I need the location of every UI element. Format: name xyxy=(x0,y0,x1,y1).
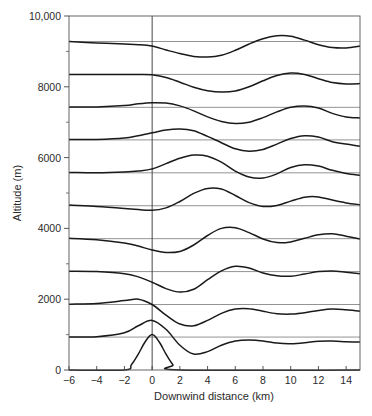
y-tick-label: 0 xyxy=(55,364,61,376)
x-tick-label: 10 xyxy=(285,374,297,386)
x-axis-title: Downwind distance (km) xyxy=(154,390,274,402)
y-tick-label: 10,000 xyxy=(29,10,61,22)
x-tick-label: 8 xyxy=(260,374,266,386)
streamline xyxy=(69,36,360,58)
streamlines xyxy=(69,36,360,371)
y-tick-label: 2000 xyxy=(38,293,62,305)
y-tick-label: 4000 xyxy=(38,222,62,234)
streamline xyxy=(69,335,360,371)
streamline xyxy=(69,266,360,292)
x-tick-label: −4 xyxy=(91,374,103,386)
y-tick-label: 6000 xyxy=(38,152,62,164)
x-tick-label: 14 xyxy=(340,374,352,386)
y-tick-label: 8000 xyxy=(38,81,62,93)
x-tick-label: 4 xyxy=(205,374,211,386)
x-axis: −6−4−202468101214 xyxy=(63,366,352,386)
streamline xyxy=(69,299,360,326)
x-tick-label: 0 xyxy=(149,374,155,386)
streamline xyxy=(69,103,360,124)
x-tick-label: 2 xyxy=(177,374,183,386)
streamline xyxy=(69,188,360,210)
x-tick-label: −2 xyxy=(118,374,130,386)
streamline xyxy=(69,73,360,92)
x-tick-label: 6 xyxy=(232,374,238,386)
reference-lines xyxy=(69,41,360,337)
streamline xyxy=(69,227,360,252)
chart: −6−4−202468101214 0200040006000800010,00… xyxy=(0,0,372,416)
y-axis-title: Altitude (m) xyxy=(11,165,23,221)
y-axis: 0200040006000800010,000 xyxy=(29,10,69,376)
x-tick-label: −6 xyxy=(63,374,75,386)
streamline xyxy=(69,155,360,178)
x-tick-label: 12 xyxy=(313,374,325,386)
